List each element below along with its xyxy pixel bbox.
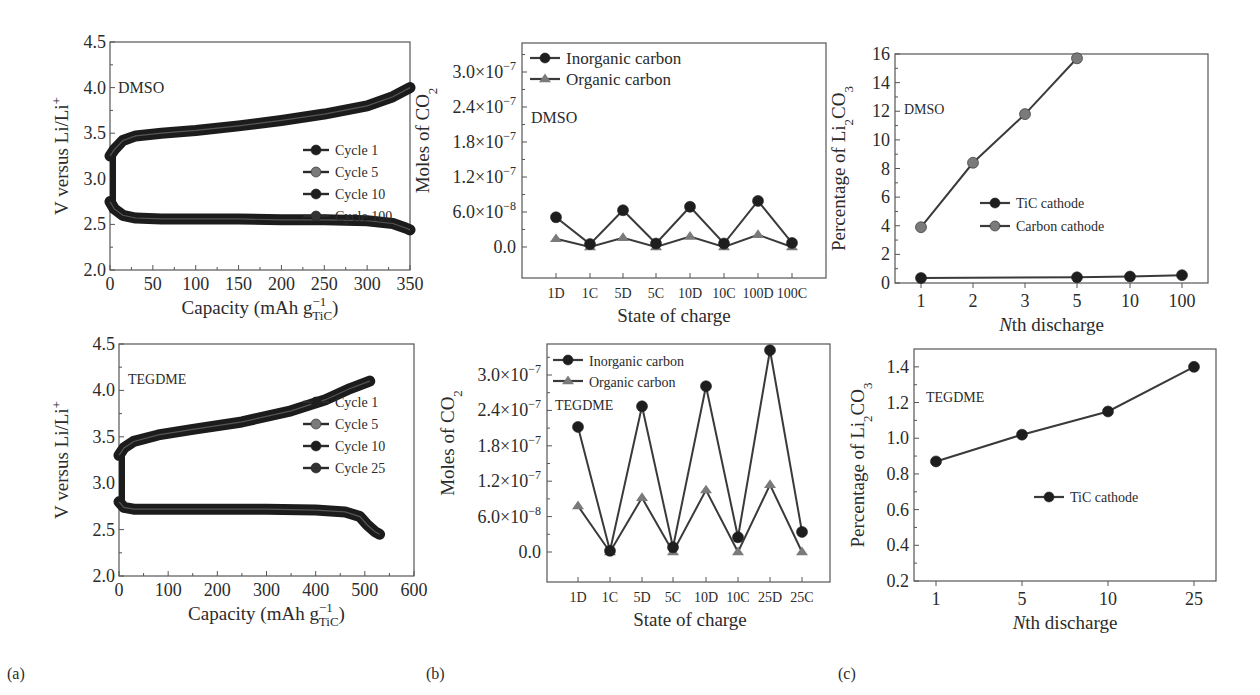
legend-label-inorganic: Inorganic carbon [566,49,682,68]
y-tick-exponent: −8 [528,504,541,518]
panel-c-bottom-li2co3-tegdme: 0.20.40.60.81.01.21.4151025TiC cathodeTE… [847,349,1216,633]
solvent-annotation: DMSO [118,79,164,96]
legend-label: Cycle 5 [335,417,378,432]
x-tick-label: 10C [712,286,735,301]
y-tick-mantissa: 0.0 [494,237,517,257]
x-label-main: Capacity (mAh g [182,297,313,319]
data-marker-icon [968,157,979,168]
y-tick-mantissa: 6.0×10 [478,507,529,527]
y-tick-label: 3.0×10−7 [478,362,541,385]
y-label-part: CO [828,93,849,119]
x-tick-label: 50 [144,274,162,294]
legend-label: Cycle 100 [335,209,392,224]
y-axis-label: Moles of CO2 [437,390,465,496]
x-tick-label: 10D [678,286,702,301]
x-tick-label: 200 [204,580,231,600]
x-tick-label: 10C [726,590,749,605]
organic-carbon-marker-icon [572,501,584,510]
x-tick-label: 350 [397,274,424,294]
y-tick-label: 3.0×10−7 [453,59,516,82]
y-tick-mantissa: 3.0×10 [478,365,529,385]
x-tick-label: 600 [401,580,428,600]
legend-marker-icon [311,463,321,473]
y-tick-label: 10 [872,130,890,150]
legend-label-organic: Organic carbon [589,375,675,390]
y-axis-label: V versus Li/Li+ [49,97,73,215]
y-tick-label: 2.4×10−7 [478,397,541,420]
plot-frame [895,54,1208,283]
solvent-annotation: DMSO [531,109,577,126]
solvent-annotation: TEGDME [555,398,613,413]
y-tick-label: 2.5 [84,214,107,234]
inorganic-carbon-marker-icon [605,545,616,556]
organic-carbon-marker-icon [752,229,764,238]
inorganic-carbon-marker-icon [685,201,696,212]
legend-marker-icon [311,441,321,451]
y-tick-label: 1.8×10−7 [478,433,541,456]
y-tick-label: 12 [872,101,890,121]
legend-label: Cycle 5 [335,165,378,180]
x-axis-label: State of charge [617,305,731,326]
y-tick-label: 1.2 [887,393,910,413]
inorganic-carbon-marker-icon [701,381,712,392]
y-tick-label: 0.4 [887,535,910,555]
inorganic-carbon-marker-icon [733,532,744,543]
y-tick-exponent: −8 [503,199,516,213]
y-label-part: V versus Li/Li [51,408,72,518]
x-tick-label: 100 [155,580,182,600]
x-axis-label: Nth discharge [998,314,1104,335]
charge-curve-band [119,381,370,455]
y-tick-mantissa: 1.8×10 [453,132,504,152]
y-label-part: Moles of CO [437,397,458,496]
x-tick-label: 3 [1021,291,1030,311]
legend-marker-icon [1044,492,1054,502]
organic-carbon-marker-icon [700,485,712,494]
legend-marker-icon [311,397,321,407]
y-tick-label: 2.4×10−7 [453,94,516,117]
legend-marker-icon [311,167,321,177]
y-label-part: + [49,401,64,408]
inorganic-carbon-marker-icon [618,205,629,216]
y-tick-exponent: −7 [503,129,516,143]
y-tick-label: 1.4 [887,357,910,377]
y-tick-label: 2 [881,244,890,264]
y-tick-label: 8 [881,159,890,179]
tic-cathode-line [921,275,1182,278]
x-tick-label: 250 [311,274,338,294]
inorganic-carbon-marker-icon [787,237,798,248]
data-marker-icon [1125,271,1136,282]
y-axis-label: V versus Li/Li+ [49,401,73,519]
x-label-tail: ) [339,603,345,625]
x-label-sub: TiC [312,308,332,323]
x-axis-label: State of charge [633,609,747,630]
y-label-part: Moles of CO [412,94,433,193]
x-tick-label: 1C [602,590,618,605]
legend-label-organic: Organic carbon [566,70,671,89]
y-axis-label: Percentage of Li2CO3 [828,86,856,251]
y-tick-exponent: −7 [528,468,541,482]
y-tick-mantissa: 2.4×10 [478,400,529,420]
x-tick-label: 5C [665,590,681,605]
solvent-annotation: TEGDME [926,390,984,405]
y-tick-label: 1.2×10−7 [453,164,516,187]
legend-label: TiC cathode [1016,196,1084,211]
y-tick-label: 3.5 [93,427,116,447]
solvent-annotation: DMSO [904,102,944,117]
y-tick-label: 1.8×10−7 [453,129,516,152]
y-tick-label: 6 [881,187,890,207]
y-tick-label: 0.2 [887,571,910,591]
y-label-part: 2 [450,390,465,397]
data-marker-icon [1103,406,1114,417]
y-tick-label: 4.0 [84,78,107,98]
panel-b-top-co2-dmso: 0.06.0×10−81.2×10−71.8×10−72.4×10−73.0×1… [412,43,826,326]
inorganic-carbon-marker-icon [753,195,764,206]
legend-marker-icon [311,145,321,155]
panel-a-top-voltage-dmso: 2.02.53.03.54.04.5050100150200250300350D… [49,32,424,323]
x-axis-label: Capacity (mAh g−1TiC) [182,294,339,323]
y-tick-mantissa: 1.8×10 [478,436,529,456]
data-marker-icon [1072,53,1083,64]
x-tick-label: 5C [648,286,664,301]
x-tick-label: 0 [106,274,115,294]
legend-label: Cycle 1 [335,143,378,158]
legend-label: Cycle 25 [335,461,385,476]
